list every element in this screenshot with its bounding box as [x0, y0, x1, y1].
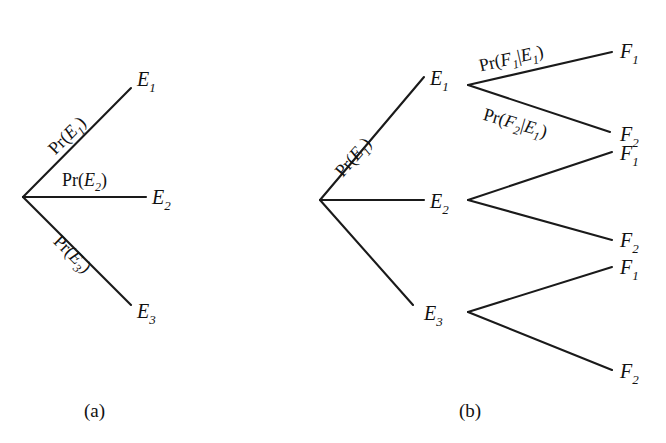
panel-b-node-f1-c: F1	[619, 256, 639, 283]
panel-a-prob-label-middle: Pr(E2)	[62, 170, 107, 194]
panel-b-stage2-branch-6	[468, 312, 612, 370]
probability-tree-figure: E1 E2 E3 Pr(E1) Pr(E2) Pr(E3) (a) E1 E2	[0, 0, 666, 443]
panel-a-group: E1 E2 E3 Pr(E1) Pr(E2) Pr(E3) (a)	[23, 68, 171, 422]
panel-a-node-e1: E1	[136, 68, 156, 95]
panel-b-group: E1 E2 E3 Pr(E1) F1 F2 F1 F2 F1 F2	[320, 40, 639, 422]
panel-b-prob-label-cond2: Pr(F2|E1)	[480, 104, 550, 145]
panel-b-prob-cond2-group: Pr(F2|E1)	[480, 104, 550, 145]
panel-b-stage2-branch-5	[468, 267, 612, 312]
panel-a-caption: (a)	[84, 400, 105, 422]
panel-a-node-e3: E3	[136, 300, 156, 327]
panel-b-stage2-branch-3	[468, 152, 612, 200]
panel-b-caption: (b)	[459, 400, 481, 422]
panel-a-node-e2: E2	[151, 186, 171, 213]
panel-b-stage1-branch-bottom	[320, 200, 413, 305]
panel-b-node-e3: E3	[423, 302, 443, 329]
panel-a-prob-label-bottom: Pr(E3)	[47, 231, 96, 280]
panel-a-prob-bottom-group: Pr(E3)	[47, 231, 96, 280]
panel-a-prob-label-top: Pr(E1)	[44, 112, 93, 161]
panel-b-node-e1: E1	[429, 67, 449, 94]
tree-diagram-canvas: E1 E2 E3 Pr(E1) Pr(E2) Pr(E3) (a) E1 E2	[0, 0, 666, 443]
panel-b-stage1-branch-top	[320, 77, 424, 200]
panel-b-prob-label-cond1: Pr(F1|E1)	[477, 41, 546, 79]
panel-b-node-f2-c: F2	[619, 360, 639, 387]
panel-b-node-f1-a: F1	[619, 40, 639, 67]
panel-b-prob-cond1-group: Pr(F1|E1)	[477, 41, 546, 79]
panel-a-prob-top-group: Pr(E1)	[44, 112, 93, 161]
panel-b-node-f2-b: F2	[619, 229, 639, 256]
panel-b-node-e2: E2	[429, 190, 449, 217]
panel-b-stage2-branch-4	[468, 200, 612, 240]
